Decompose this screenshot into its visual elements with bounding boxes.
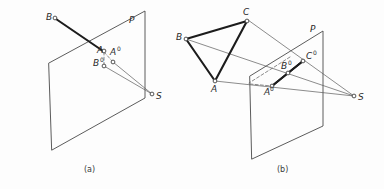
caption-a: (a) [84, 165, 95, 174]
svg-text:C: C [306, 51, 313, 61]
svg-text:B: B [281, 61, 287, 71]
svg-text:0: 0 [270, 85, 274, 92]
triangle-abc-b [186, 21, 247, 81]
svg-text:0: 0 [288, 59, 292, 66]
point-b-marker-a [53, 16, 57, 20]
point-a0-marker-a [111, 60, 115, 64]
label-a-b: A [210, 84, 217, 94]
point-b0-marker-a [102, 64, 106, 68]
point-b0-marker-b [286, 71, 290, 75]
panel-a: B A A 0 B 0 S P (a) [46, 11, 162, 174]
point-s-marker-a [150, 92, 154, 96]
label-b0-b: B 0 [281, 59, 292, 71]
plane-p-outline-a [49, 11, 145, 150]
point-a-marker-b [213, 79, 217, 83]
svg-text:0: 0 [117, 45, 121, 52]
point-c0-marker-b [301, 59, 305, 63]
panel-b: C B A A 0 B 0 C 0 S P (b) [176, 7, 364, 174]
projection-diagram: B A A 0 B 0 S P (a) [0, 0, 384, 189]
ray-s-to-a0-a [113, 62, 152, 94]
figure-container: B A A 0 B 0 S P (a) [0, 0, 384, 189]
point-b-marker-b [184, 37, 188, 41]
label-a-a: A [96, 45, 103, 55]
label-s-a: S [156, 91, 162, 101]
label-b-a: B [46, 12, 52, 22]
svg-text:0: 0 [100, 56, 104, 63]
svg-text:0: 0 [313, 49, 317, 56]
point-c-marker-b [245, 19, 249, 23]
label-a0-a: A 0 [109, 45, 121, 57]
label-b-b: B [176, 32, 182, 42]
ray-s-to-a-b [215, 81, 354, 96]
caption-b: (b) [277, 165, 288, 174]
point-s-marker-b [352, 94, 356, 98]
label-c-b: C [243, 7, 250, 17]
svg-text:A: A [109, 47, 116, 57]
label-plane-p-a: P [129, 15, 135, 25]
ray-s-to-c-b [248, 20, 354, 96]
label-c0-b: C 0 [306, 49, 317, 61]
svg-text:B: B [93, 58, 99, 68]
label-plane-p-b: P [310, 24, 316, 34]
label-s-b: S [358, 92, 364, 102]
label-a0-b: A 0 [263, 85, 274, 97]
